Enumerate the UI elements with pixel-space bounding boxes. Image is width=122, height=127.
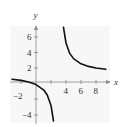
graph-svg: −2 4 6 8 6 4 2 −4 x y [0,0,122,127]
x-tick-label: 6 [79,86,84,96]
plot-area [10,26,110,123]
y-tick-label: 2 [27,63,32,73]
y-tick-label: 4 [27,48,32,58]
y-tick-label: 6 [27,32,32,42]
x-tick-label: 4 [64,86,69,96]
x-tick-label: −2 [13,91,23,101]
y-tick-label: −4 [22,110,32,120]
chart-container: −2 4 6 8 6 4 2 −4 x y [0,0,122,127]
x-axis-label: x [113,77,118,87]
x-tick-label: 8 [94,86,99,96]
y-axis-label: y [33,10,38,20]
